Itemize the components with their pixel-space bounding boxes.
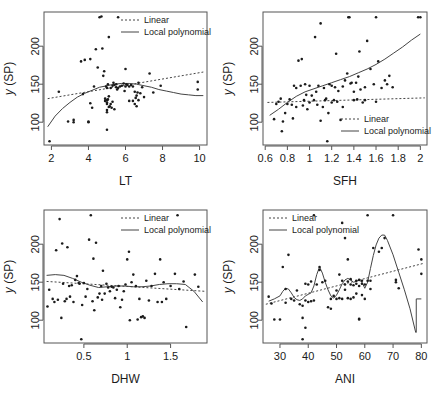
data-point (124, 283, 127, 286)
data-point (84, 295, 87, 298)
data-point (98, 292, 101, 295)
data-point (317, 84, 320, 87)
x-tick-label: 6 (122, 152, 128, 164)
data-point (349, 298, 352, 301)
data-point (284, 112, 287, 115)
legend-local-label: Local polynomial (364, 126, 431, 136)
data-point (102, 75, 105, 78)
data-point (81, 304, 84, 307)
data-point (364, 99, 367, 102)
data-point (114, 297, 117, 300)
data-point (282, 120, 285, 123)
y-tick-label: 150 (29, 273, 41, 291)
data-point (92, 257, 95, 260)
data-point (53, 301, 56, 304)
data-point (391, 86, 394, 89)
data-point (347, 297, 350, 300)
data-point (373, 83, 376, 86)
y-tick-label: 100 (29, 113, 41, 131)
legend-linear-label: Linear (364, 114, 389, 124)
legend-linear-label: Linear (144, 15, 169, 25)
data-point (197, 285, 200, 288)
data-point (105, 282, 108, 285)
x-tick-label: 10 (193, 152, 205, 164)
data-point (80, 60, 83, 63)
data-point (315, 91, 318, 94)
data-point (301, 304, 304, 307)
data-point (358, 285, 361, 288)
x-tick-label: 0.8 (280, 152, 295, 164)
x-tick-label: 1.8 (391, 152, 406, 164)
y-tick-label: 200 (248, 235, 260, 253)
data-point (348, 16, 351, 19)
x-axis-title: ANI (335, 372, 355, 386)
legend-local-label: Local polynomial (144, 225, 211, 235)
panel-lt-svg: 246810100150200LTy (SP)LinearLocal polyn… (0, 0, 219, 198)
data-point (352, 296, 355, 299)
data-point (176, 214, 179, 217)
data-point (322, 106, 325, 109)
data-point (128, 251, 131, 254)
x-tick-label: 4 (85, 152, 91, 164)
data-point (298, 303, 301, 306)
data-point (108, 36, 111, 39)
data-point (337, 90, 340, 93)
data-point (355, 292, 358, 295)
data-point (313, 99, 316, 102)
data-point (76, 275, 79, 278)
figure-panel-grid: 246810100150200LTy (SP)LinearLocal polyn… (0, 0, 439, 396)
y-axis-title: y (SP) (221, 62, 235, 96)
data-point (273, 118, 276, 121)
x-tick-label: 1 (306, 152, 312, 164)
data-point (420, 273, 423, 276)
data-point (46, 305, 49, 308)
data-point (346, 72, 349, 75)
data-point (375, 100, 378, 103)
data-point (288, 98, 291, 101)
data-point (57, 298, 60, 301)
data-point (355, 282, 358, 285)
data-point (111, 100, 114, 103)
data-point (397, 287, 400, 290)
data-point (273, 318, 276, 321)
data-point (315, 283, 318, 286)
data-point (319, 119, 322, 122)
data-point (141, 86, 144, 89)
data-point (95, 241, 98, 244)
data-point (369, 288, 372, 291)
y-tick-label: 100 (248, 113, 260, 131)
panel-dhw: 0.511.5100150200DHWy (SP)LinearLocal pol… (0, 198, 219, 396)
data-point (143, 96, 146, 99)
x-tick-label: 8 (159, 152, 165, 164)
data-point (304, 299, 307, 302)
data-point (361, 101, 364, 104)
data-point (344, 79, 347, 82)
data-point (300, 58, 303, 61)
data-point (347, 280, 350, 283)
data-point (148, 72, 151, 75)
data-point (88, 238, 91, 241)
x-tick-label: 0.6 (258, 152, 273, 164)
data-point (292, 117, 295, 120)
data-point (61, 242, 64, 245)
data-point (78, 282, 81, 285)
data-point (68, 285, 71, 288)
data-point (137, 99, 140, 102)
data-point (103, 292, 106, 295)
data-point (344, 289, 347, 292)
data-point (355, 81, 358, 84)
data-point (279, 318, 282, 321)
data-point (287, 254, 290, 257)
data-point (60, 317, 63, 320)
legend-linear-label: Linear (292, 213, 317, 223)
data-point (386, 83, 389, 86)
data-point (126, 258, 129, 261)
data-point (117, 16, 120, 19)
x-tick-label: 60 (359, 350, 371, 362)
data-point (70, 284, 73, 287)
data-point (330, 101, 333, 104)
data-point (55, 249, 58, 252)
data-point (148, 299, 151, 302)
data-point (361, 282, 364, 285)
data-point (196, 88, 199, 91)
